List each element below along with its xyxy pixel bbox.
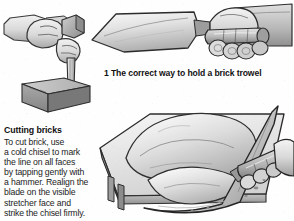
body-line: blade on the visible bbox=[4, 187, 100, 197]
body-line: by tapping gently with bbox=[4, 167, 100, 177]
body-line: stretcher face and bbox=[4, 198, 100, 208]
hand-holding-brick-trowel-illustration bbox=[84, 0, 294, 70]
cutting-bricks-heading: Cutting bricks bbox=[4, 125, 62, 135]
board-leg-left-2 bbox=[118, 184, 124, 210]
body-line: a cold chisel to mark bbox=[4, 147, 100, 157]
board-leg-left bbox=[108, 176, 114, 202]
body-line: the line on all faces bbox=[4, 157, 100, 167]
cutting-bricks-body: To cut brick, use a cold chisel to mark … bbox=[4, 137, 100, 218]
body-line: To cut brick, use bbox=[4, 137, 100, 147]
trowel-loading-mortar-illustration bbox=[88, 84, 294, 221]
page-canvas: 1 The correct way to hold a brick trowel bbox=[0, 0, 294, 221]
body-line: a hammer. Realign the bbox=[4, 177, 100, 187]
body-line: strike the chisel firmly. bbox=[4, 208, 100, 218]
trowel-caption: 1 The correct way to hold a brick trowel bbox=[104, 68, 261, 78]
